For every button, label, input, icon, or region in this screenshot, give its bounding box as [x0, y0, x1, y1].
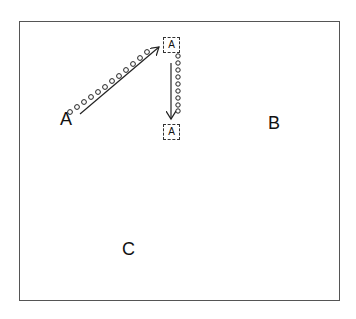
boxed-label-a-bottom: A [163, 124, 180, 140]
diagonal-arrow [80, 47, 159, 114]
label-a: A [60, 110, 72, 128]
diagram-canvas: A B C A A [0, 0, 356, 319]
label-c: C [122, 240, 135, 258]
diagonal-circle-trail [68, 50, 150, 115]
boxed-label-a-top: A [163, 37, 180, 53]
vertical-circle-trail [176, 54, 180, 113]
label-b: B [268, 114, 280, 132]
